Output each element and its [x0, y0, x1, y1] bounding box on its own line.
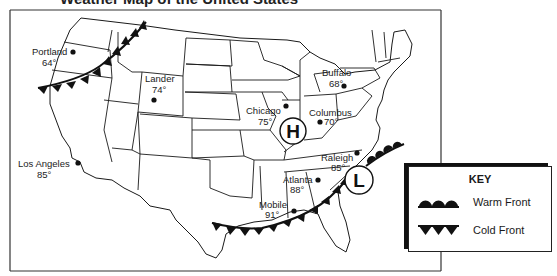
city-dot: [283, 103, 288, 108]
svg-text:L: L: [353, 170, 365, 191]
key-label-cold-front: Cold Front: [473, 224, 524, 236]
svg-text:Chicago: Chicago: [246, 105, 281, 116]
svg-text:Los Angeles: Los Angeles: [18, 158, 70, 169]
svg-text:75°: 75°: [258, 116, 273, 127]
svg-text:Lander: Lander: [145, 73, 175, 84]
svg-text:68°: 68°: [329, 78, 344, 89]
key-item-cold-front: Cold Front: [417, 221, 524, 239]
cold-front-symbol-icon: [417, 224, 461, 236]
city-dot: [315, 177, 320, 182]
key-title: KEY: [409, 173, 551, 185]
key-item-warm-front: Warm Front: [417, 193, 531, 211]
city-dot: [151, 97, 156, 102]
svg-text:88°: 88°: [290, 184, 305, 195]
map-key: KEY Warm Front Cold Front: [408, 166, 552, 252]
city-dot: [70, 49, 75, 54]
svg-text:Buffalo: Buffalo: [322, 67, 351, 78]
svg-text:85°: 85°: [37, 169, 52, 180]
warm-front-symbol-icon: [417, 196, 461, 208]
svg-text:70°: 70°: [324, 116, 339, 127]
city-dot: [354, 150, 359, 155]
city-los-angeles: Los Angeles 85°: [18, 158, 81, 180]
city-dot: [75, 160, 80, 165]
city-dot: [317, 119, 322, 124]
us-states: [50, 18, 412, 258]
svg-text:Portland: Portland: [32, 46, 67, 57]
svg-text:H: H: [286, 121, 300, 142]
high-pressure-marker: H: [280, 118, 306, 144]
svg-text:91°: 91°: [265, 209, 280, 220]
key-label-warm-front: Warm Front: [473, 196, 531, 208]
svg-text:85°: 85°: [331, 162, 346, 173]
svg-text:64°: 64°: [42, 57, 57, 68]
svg-text:74°: 74°: [152, 84, 167, 95]
low-pressure-marker: L: [345, 166, 373, 194]
city-dot: [291, 208, 296, 213]
